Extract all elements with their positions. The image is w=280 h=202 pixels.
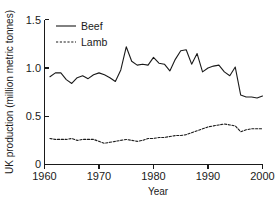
y-axis-tick-labels: 0 0.5 1.0 1.5 — [26, 14, 41, 171]
y-tick-label-3: 1.5 — [26, 14, 41, 26]
legend-label-beef: Beef — [81, 20, 103, 32]
series-line-lamb — [50, 124, 263, 143]
x-axis-tick-labels: 1960 1970 1980 1990 2000 — [32, 170, 274, 182]
chart-canvas: 0 0.5 1.0 1.5 1960 1970 1980 1990 2000 Y… — [0, 0, 280, 202]
x-tick-label-2000: 2000 — [250, 170, 274, 182]
line-chart-figure: 0 0.5 1.0 1.5 1960 1970 1980 1990 2000 Y… — [0, 0, 280, 202]
chart-axes — [45, 20, 263, 165]
x-tick-label-1970: 1970 — [87, 170, 111, 182]
legend-label-lamb: Lamb — [81, 36, 107, 48]
x-axis-title: Year — [148, 186, 169, 197]
x-tick-label-1990: 1990 — [196, 170, 220, 182]
data-series-group — [50, 47, 263, 143]
series-line-beef — [50, 47, 263, 98]
x-tick-label-1980: 1980 — [141, 170, 165, 182]
chart-legend: Beef Lamb — [56, 20, 107, 48]
y-tick-label-0: 0 — [35, 158, 41, 170]
y-axis-title: UK production (million metric tonnes) — [4, 10, 15, 174]
x-tick-label-1960: 1960 — [32, 170, 56, 182]
y-tick-label-1: 0.5 — [26, 110, 41, 122]
y-tick-label-2: 1.0 — [26, 62, 41, 74]
